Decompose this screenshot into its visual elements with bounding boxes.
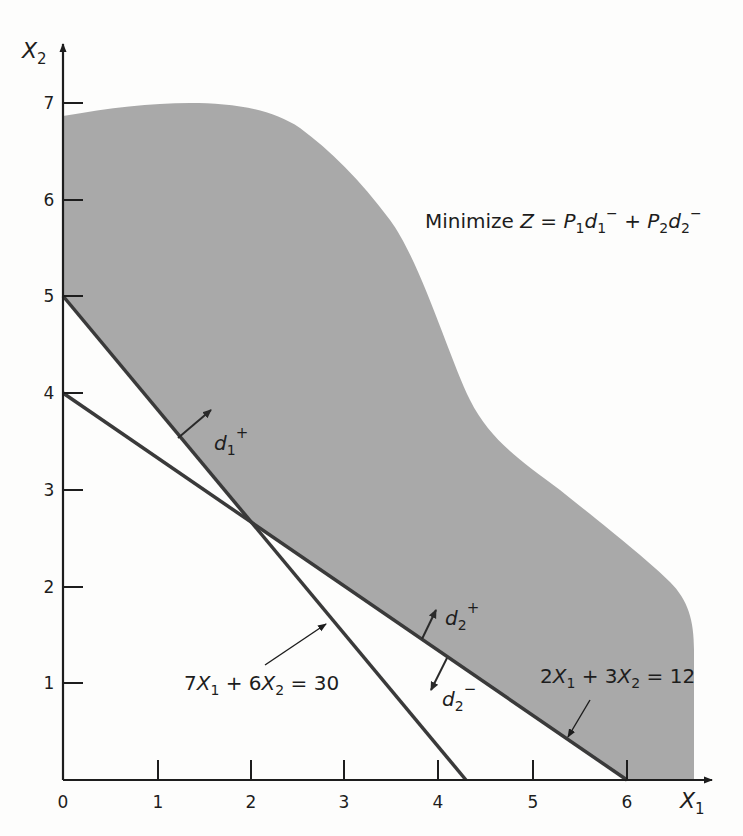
x-tick-6: 6 (622, 792, 633, 812)
goal-programming-diagram: 0 1 2 3 4 5 6 1 2 3 4 5 6 7 X2 X1 Minimi… (0, 0, 743, 836)
y-tick-1: 1 (44, 673, 55, 693)
constraint-1-label: 7X1 + 6X2 = 30 (184, 671, 339, 698)
y-tick-5: 5 (44, 286, 55, 306)
y-tick-6: 6 (44, 190, 55, 210)
objective-function: Minimize Z = P1d1− + P2d2− (425, 205, 702, 236)
x-ticks (158, 760, 627, 780)
y-tick-7: 7 (44, 93, 55, 113)
y-tick-labels: 1 2 3 4 5 6 7 (44, 93, 55, 693)
x-tick-3: 3 (339, 792, 350, 812)
x-tick-labels: 0 1 2 3 4 5 6 (58, 792, 633, 812)
y-tick-3: 3 (44, 480, 55, 500)
constraint-1-pointer (265, 624, 326, 665)
d2-minus-arrow (431, 658, 447, 690)
x-tick-4: 4 (433, 792, 444, 812)
y-axis-label: X2 (21, 38, 47, 68)
x-tick-1: 1 (153, 792, 164, 812)
x-axis-label: X1 (679, 788, 705, 818)
d2-minus-label: d2− (442, 680, 476, 714)
constraint-2-label: 2X1 + 3X2 = 12 (540, 664, 695, 691)
y-tick-2: 2 (44, 577, 55, 597)
x-tick-0: 0 (58, 792, 69, 812)
x-tick-2: 2 (246, 792, 257, 812)
y-tick-4: 4 (44, 383, 55, 403)
x-tick-5: 5 (528, 792, 539, 812)
